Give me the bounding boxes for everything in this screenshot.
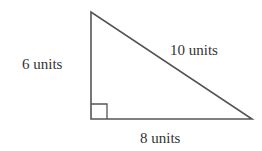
right-angle-marker <box>91 104 107 119</box>
vertical-leg-label: 6 units <box>22 56 63 72</box>
triangle-shape <box>91 12 252 119</box>
hypotenuse-label: 10 units <box>170 42 218 58</box>
right-triangle-diagram: 6 units 10 units 8 units <box>0 0 262 151</box>
horizontal-leg-label: 8 units <box>140 130 181 146</box>
